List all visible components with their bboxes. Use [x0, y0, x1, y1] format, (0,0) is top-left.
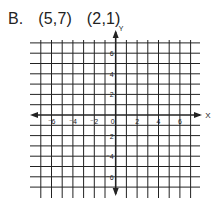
- x-tick-label: 4: [157, 118, 161, 125]
- y-tick-label: 6: [110, 50, 114, 57]
- y-tick-label: 4: [110, 71, 114, 78]
- x-tick-label: 2: [135, 118, 139, 125]
- y-tick-label: ⁻4: [106, 153, 114, 160]
- x-tick-label: 6: [178, 118, 182, 125]
- x-tick-label: ⁻2: [90, 118, 98, 125]
- y-tick-label: 2: [110, 91, 114, 98]
- coordinate-grid: XY⁻6⁻4⁻20246642⁻2⁻4⁻6: [0, 0, 218, 202]
- y-tick-label: ⁻6: [106, 174, 114, 181]
- x-tick-label: ⁻6: [48, 118, 56, 125]
- x-tick-label: ⁻4: [69, 118, 77, 125]
- x-axis-arrow-left-icon: [30, 112, 38, 118]
- y-axis-arrow-down-icon: [113, 188, 119, 196]
- x-axis-arrow-right-icon: [194, 112, 202, 118]
- y-axis-label: Y: [119, 25, 124, 32]
- y-tick-label: ⁻2: [106, 133, 114, 140]
- x-axis-label: X: [205, 111, 211, 120]
- x-tick-label: 0: [111, 118, 115, 125]
